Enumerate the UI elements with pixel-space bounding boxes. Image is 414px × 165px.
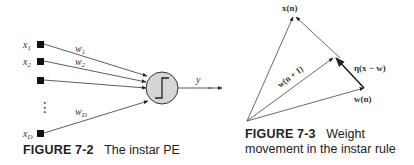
label-x-n: x(n)	[282, 3, 298, 13]
weight-label-d: wD	[75, 106, 87, 119]
vector-x-minus-w	[296, 17, 340, 58]
input-label-2: x2	[22, 56, 31, 69]
weight-label-2: w2	[75, 56, 86, 69]
caption-text-line2: movement in the instar rule	[245, 142, 396, 157]
connection-3	[44, 80, 146, 88]
input-label-d: xD	[22, 128, 33, 141]
caption-text-line1: Weight	[326, 127, 365, 141]
weight-movement-diagram: x(n) w(n + 1) w(n) η(x − w)	[208, 3, 386, 121]
output-label: y	[195, 74, 201, 85]
vector-w	[247, 88, 364, 121]
figure-7-3-caption: FIGURE 7-3 Weight movement in the instar…	[245, 127, 396, 157]
vector-x	[247, 17, 293, 121]
inputs-ellipsis: ⋮	[38, 99, 52, 115]
input-node-1	[37, 41, 44, 48]
label-w-next: w(n + 1)	[275, 64, 305, 90]
input-node-3	[37, 77, 44, 84]
input-node-d	[37, 130, 44, 137]
connection-2	[44, 61, 146, 82]
figure-7-2-caption: FIGURE 7-2 The instar PE	[23, 143, 180, 158]
label-w-n: w(n)	[354, 94, 372, 104]
label-delta: η(x − w)	[354, 63, 386, 73]
caption-number: FIGURE 7-3	[245, 127, 316, 141]
instar-pe-diagram: x1 x2 xD ⋮ w1 w2 wD y	[22, 39, 212, 141]
caption-number: FIGURE 7-2	[23, 143, 94, 157]
input-label-1: x1	[22, 39, 31, 52]
vector-w-next	[247, 58, 333, 121]
connection-d	[44, 101, 148, 133]
input-node-2	[37, 58, 44, 65]
caption-text: The instar PE	[104, 143, 180, 157]
